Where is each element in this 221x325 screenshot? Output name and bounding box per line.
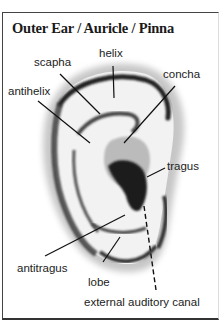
label-antihelix: antihelix [8, 85, 50, 97]
label-concha: concha [163, 68, 200, 80]
label-lobe: lobe [88, 276, 110, 288]
label-scapha: scapha [34, 56, 71, 68]
label-helix: helix [99, 47, 123, 59]
label-antitragus: antitragus [17, 262, 68, 274]
label-tragus: tragus [167, 160, 199, 172]
label-external-auditory-canal: external auditory canal [84, 296, 200, 308]
